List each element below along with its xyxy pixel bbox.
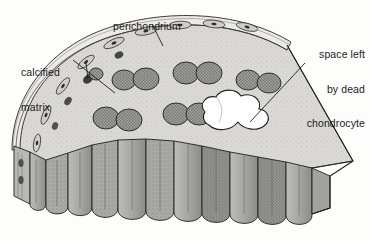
label-perichondrium: perichondrium xyxy=(101,9,181,44)
label-perichondrium-text: perichondrium xyxy=(113,20,181,32)
cartilage-diagram: perichondrium calcified matrix space lef… xyxy=(0,0,370,241)
label-dead-chondrocyte: space left by dead chondrocyte xyxy=(307,26,365,153)
label-dead-chondrocyte-line1: space left xyxy=(307,49,365,61)
label-dead-chondrocyte-line3: chondrocyte xyxy=(307,118,365,130)
right-side-face xyxy=(312,168,330,214)
label-calcified-matrix-line1: calcified xyxy=(21,67,60,79)
label-calcified-matrix-line2: matrix xyxy=(21,102,60,114)
label-calcified-matrix: calcified matrix xyxy=(21,44,60,136)
label-dead-chondrocyte-line2: by dead xyxy=(307,84,365,96)
